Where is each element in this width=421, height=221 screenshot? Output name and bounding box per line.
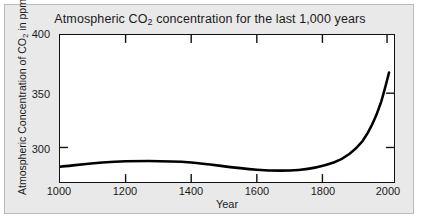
chart-title-pre: Atmospheric CO xyxy=(54,12,147,26)
x-tick-label-1000: 1000 xyxy=(29,185,89,197)
y-axis-label-pre: Atmospheric Concentration of CO xyxy=(16,38,28,195)
x-axis-label: Year xyxy=(59,198,395,210)
x-tick-label-1200: 1200 xyxy=(95,185,155,197)
axis-ticks xyxy=(60,35,394,182)
chart-title-post: concentration for the last 1,000 years xyxy=(153,12,366,26)
y-axis-label: Atmospheric Concentration of CO2 in ppm xyxy=(14,29,30,195)
x-tick-label-1800: 1800 xyxy=(293,185,353,197)
y-tick-label-400: 400 xyxy=(10,28,50,40)
chart-title: Atmospheric CO2 concentration for the la… xyxy=(5,12,415,26)
plot-svg xyxy=(60,35,394,182)
y-axis-label-container: Atmospheric Concentration of CO2 in ppm xyxy=(14,29,30,195)
figure-panel: Atmospheric CO2 concentration for the la… xyxy=(4,4,414,214)
y-tick-label-300: 300 xyxy=(10,143,50,155)
y-tick-label-350: 350 xyxy=(10,88,50,100)
co2-curve xyxy=(60,72,389,170)
plot-area xyxy=(59,34,395,183)
x-tick-label-1600: 1600 xyxy=(227,185,287,197)
chart-title-subscript: 2 xyxy=(147,17,152,27)
x-tick-label-2000: 2000 xyxy=(358,185,418,197)
x-tick-label-1400: 1400 xyxy=(161,185,221,197)
